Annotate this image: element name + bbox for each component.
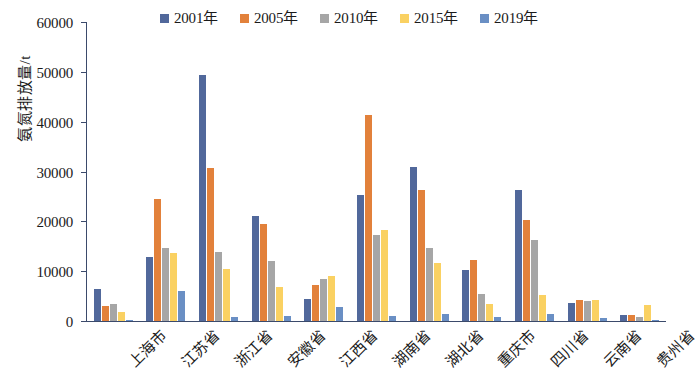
- bar: [381, 230, 388, 321]
- bar-group: [87, 22, 140, 321]
- bar: [276, 287, 283, 321]
- bar-group: [350, 22, 403, 321]
- bar: [304, 299, 311, 321]
- bar: [410, 167, 417, 321]
- x-axis-label: 贵州省: [651, 324, 698, 371]
- x-axis-label: 江苏省: [177, 324, 224, 371]
- x-axis-label: 重庆市: [493, 324, 540, 371]
- bar: [336, 307, 343, 321]
- bar: [162, 248, 169, 321]
- bar: [268, 261, 275, 321]
- x-axis-labels: 上海市江苏省浙江省安徽省江西省湖南省湖北省重庆市四川省云南省贵州省: [86, 322, 666, 390]
- x-axis-label: 湖北省: [440, 324, 487, 371]
- bar-group: [455, 22, 508, 321]
- bar-group: [508, 22, 561, 321]
- bar: [531, 240, 538, 321]
- bar: [576, 300, 583, 321]
- bar: [207, 168, 214, 321]
- bar: [494, 317, 501, 321]
- bar: [515, 190, 522, 321]
- bar-group: [140, 22, 193, 321]
- bar: [568, 303, 575, 321]
- y-axis-tick-label: 10000: [36, 264, 73, 281]
- bar: [223, 269, 230, 321]
- bar-group: [561, 22, 614, 321]
- bar: [252, 216, 259, 321]
- bar: [118, 312, 125, 321]
- bar: [426, 248, 433, 321]
- bar: [328, 276, 335, 321]
- bar: [199, 75, 206, 321]
- x-axis-label: 安徽省: [282, 324, 329, 371]
- bar: [284, 316, 291, 321]
- x-axis-label: 浙江省: [229, 324, 276, 371]
- bar: [418, 190, 425, 321]
- bar-group: [613, 22, 666, 321]
- bar: [478, 294, 485, 321]
- bars-layer: [87, 22, 666, 321]
- bar: [434, 263, 441, 321]
- bar: [320, 279, 327, 321]
- bar: [644, 305, 651, 321]
- bar: [462, 270, 469, 321]
- bar-group: [192, 22, 245, 321]
- bar: [584, 301, 591, 321]
- y-axis-tick-label: 50000: [36, 64, 73, 81]
- plot-area: 6000050000400003000020000100000: [86, 22, 666, 322]
- bar: [126, 320, 133, 321]
- bar: [523, 220, 530, 321]
- bar: [600, 318, 607, 321]
- x-axis-label: 四川省: [546, 324, 593, 371]
- y-axis-tick-label: 20000: [36, 214, 73, 231]
- bar: [470, 260, 477, 321]
- bar: [389, 316, 396, 321]
- bar: [357, 195, 364, 321]
- x-axis-label: 湖南省: [387, 324, 434, 371]
- x-axis-label: 江西省: [335, 324, 382, 371]
- bar: [620, 315, 627, 321]
- bar: [215, 252, 222, 321]
- bar-group: [403, 22, 456, 321]
- y-axis-tick-label: 40000: [36, 114, 73, 131]
- bar: [592, 300, 599, 321]
- bar: [547, 314, 554, 321]
- bar: [170, 253, 177, 321]
- x-axis-label: 云南省: [598, 324, 645, 371]
- bar: [94, 289, 101, 321]
- bar-group: [298, 22, 351, 321]
- bar: [312, 285, 319, 321]
- bar: [486, 304, 493, 321]
- bar-group: [245, 22, 298, 321]
- bar: [110, 304, 117, 321]
- y-axis-tick-label: 60000: [36, 15, 73, 32]
- bar: [442, 314, 449, 321]
- x-axis-label: 上海市: [124, 324, 171, 371]
- bar: [636, 317, 643, 321]
- y-axis-title: 氨氮排放量/t: [13, 14, 34, 184]
- bar: [102, 306, 109, 321]
- bar: [628, 315, 635, 321]
- bar: [373, 235, 380, 321]
- bar: [652, 320, 659, 321]
- bar: [154, 199, 161, 321]
- bar: [365, 115, 372, 321]
- bar: [539, 295, 546, 321]
- y-axis-tick-label: 30000: [36, 164, 73, 181]
- y-axis-tick-label: 0: [66, 314, 73, 331]
- bar: [260, 224, 267, 321]
- bar: [146, 257, 153, 321]
- bar: [178, 291, 185, 321]
- bar: [231, 317, 238, 321]
